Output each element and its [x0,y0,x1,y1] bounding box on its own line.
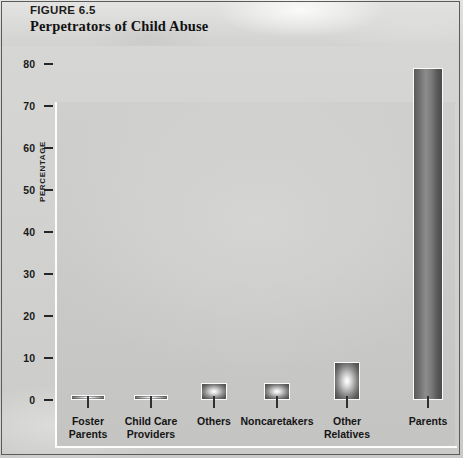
x-tick-label: OtherRelatives [301,415,393,440]
bar-stem [213,396,214,408]
y-tick-mark [44,231,53,233]
bar-stem [346,396,347,408]
figure-header-band: FIGURE 6.5 Perpetrators of Child Abuse [0,0,463,46]
bar-fill [414,69,442,399]
bar-stem [427,396,428,408]
x-axis-line [57,446,457,448]
y-tick-label: 30 [13,268,35,280]
y-tick-mark [44,273,53,275]
y-tick-label: 70 [13,100,35,112]
bar-stem [276,396,277,408]
x-tick-label-line: Parents [382,415,463,428]
bar-stem [87,396,88,408]
figure-body [0,46,463,458]
y-tick-mark [44,63,53,65]
bar-fill [335,363,359,399]
bar [334,362,360,400]
x-tick-label-line: Providers [105,428,197,441]
x-tick-label-line: Other [301,415,393,428]
y-tick-mark [44,105,53,107]
x-tick-label: Parents [382,415,463,428]
y-tick-label: 20 [13,310,35,322]
y-tick-mark [44,399,53,401]
plot-area [57,102,455,447]
y-tick-label: 60 [13,142,35,154]
y-tick-label: 80 [13,58,35,70]
y-tick-mark [44,315,53,317]
figure-container: FIGURE 6.5 Perpetrators of Child Abuse 8… [0,0,463,458]
y-tick-label: 10 [13,352,35,364]
y-tick-mark [44,357,53,359]
y-axis-title: PERCENTAGE [38,141,47,202]
y-tick-label: 0 [13,394,35,406]
x-tick-label-line: Relatives [301,428,393,441]
y-axis: 80706050403020100 [0,0,57,458]
y-tick-label: 50 [13,184,35,196]
bar [413,68,443,400]
y-tick-label: 40 [13,226,35,238]
bar-stem [150,396,151,408]
